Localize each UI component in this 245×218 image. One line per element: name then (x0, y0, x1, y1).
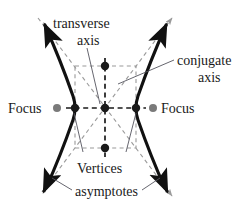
hyperbola-left-branch-arrow-top (44, 24, 49, 34)
conjugate-axis-label-line2: axis (198, 70, 221, 85)
leader-line-vertices-right (126, 113, 136, 152)
focus-left-dot (53, 104, 61, 112)
leader-line-asymptotes-right (142, 178, 160, 190)
leader-line-asymptotes-left (52, 178, 72, 190)
leader-line-conjugate-axis (118, 60, 174, 84)
transverse-axis-label-line2: axis (77, 33, 100, 48)
vertex-right-dot (132, 104, 140, 112)
covertex-top-dot (101, 62, 109, 70)
conjugate-axis-label-line1: conjugate (177, 53, 231, 68)
focus-left-label: Focus (8, 101, 41, 116)
center-dot (101, 104, 109, 112)
hyperbola-left-branch-arrow-bottom (44, 182, 48, 192)
asymptotes-label: asymptotes (75, 184, 138, 199)
vertex-left-dot (71, 104, 79, 112)
hyperbola-diagram-page: transverse axis conjugate axis Focus Foc… (0, 0, 245, 218)
hyperbola-right-branch-arrow-top (162, 24, 167, 34)
focus-right-label: Focus (161, 101, 194, 116)
hyperbola-right-branch-arrow-bottom (163, 182, 167, 192)
vertices-label: Vertices (77, 161, 122, 176)
leader-line-vertices-left (74, 113, 83, 152)
leader-line-transverse-axis (87, 48, 100, 104)
covertex-bottom-dot (101, 144, 109, 152)
focus-right-dot (149, 104, 157, 112)
transverse-axis-label-line1: transverse (53, 16, 110, 31)
hyperbola-diagram-svg: transverse axis conjugate axis Focus Foc… (0, 0, 245, 218)
